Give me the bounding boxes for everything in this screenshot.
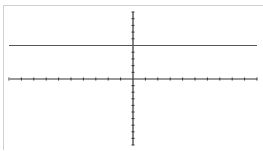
coordinate-plane — [0, 0, 263, 151]
axes — [9, 12, 257, 145]
